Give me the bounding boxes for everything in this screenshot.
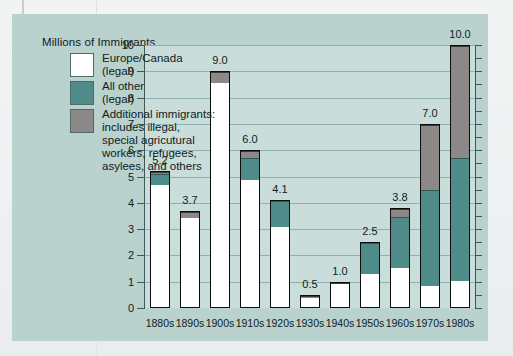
x-axis-tick-label: 1950s [356,317,385,329]
right-axis-tick [475,242,482,243]
y-axis-tick [137,177,145,178]
legend-label-line: asylees, and others [102,160,215,173]
y-axis-tick-label: 2 [108,250,134,260]
y-axis-tick-label: 4 [108,198,134,208]
x-axis-tick-label: 1920s [266,317,295,329]
legend-swatch-all-other [70,81,94,105]
right-axis-tick [475,190,482,191]
legend-label-line: Europe/Canada [102,52,183,65]
legend-label-line: includes illegal, [102,121,215,134]
right-axis-tick [475,177,482,178]
y-axis-tick [137,45,145,46]
x-axis-tick-label: 1960s [386,317,415,329]
right-axis-tick [475,137,482,138]
x-axis-tick-label: 1890s [176,317,205,329]
right-axis-tick [475,255,482,256]
x-axis-tick-label: 1940s [326,317,355,329]
legend-label-line: special agricutural [102,134,215,147]
y-axis-tick-label: 3 [108,224,134,234]
x-axis-tick-label: 1930s [296,317,325,329]
chart-axis-title: Millions of Immigrants [42,36,155,48]
y-axis-tick [137,203,145,204]
right-axis-tick [475,269,482,270]
right-axis-tick [475,84,482,85]
right-axis-tick [475,203,482,204]
y-axis-tick [137,308,145,309]
right-axis-tick [475,58,482,59]
chart-panel-inner: Millions of Immigrants 5.23.79.06.04.10.… [12,14,488,341]
y-axis-tick [137,255,145,256]
legend-item[interactable]: Europe/Canada(legal) [70,52,280,78]
right-axis-tick [475,229,482,230]
legend-label-line: workers, refugees, [102,147,215,160]
legend-label-line: (legal) [102,93,144,106]
legend-item-label: Additional immigrants:includes illegal,s… [102,108,215,173]
x-axis-tick-label: 1970s [416,317,445,329]
right-axis-tick [475,124,482,125]
right-axis-tick [475,150,482,151]
y-axis-tick [137,282,145,283]
bar-value-label: 10.0 [449,28,470,40]
x-axis-tick-label: 1880s [146,317,175,329]
y-axis-tick-label: 1 [108,277,134,287]
y-axis-tick-label: 10 [108,40,134,50]
x-axis-tick-label: 1910s [236,317,265,329]
legend-item[interactable]: Additional immigrants:includes illegal,s… [70,108,280,173]
legend-label-line: All other [102,80,144,93]
x-axis-tick-label: 1900s [206,317,235,329]
y-axis-tick [137,229,145,230]
right-axis-tick [475,111,482,112]
right-axis-tick [475,308,482,309]
right-axis-tick [475,216,482,217]
chart-panel: Millions of Immigrants 5.23.79.06.04.10.… [12,14,488,341]
right-axis-tick [475,45,482,46]
legend-label-line: (legal) [102,65,183,78]
right-axis-tick [475,282,482,283]
legend-item[interactable]: All other(legal) [70,80,280,106]
x-axis-tick-label: 1980s [446,317,475,329]
right-axis-tick [475,71,482,72]
chart-legend: Europe/Canada(legal)All other(legal)Addi… [70,52,280,175]
right-axis-tick [475,98,482,99]
right-axis-tick [475,163,482,164]
legend-swatch-additional [70,109,94,133]
scan-artifact-mark [22,0,24,14]
legend-item-label: Europe/Canada(legal) [102,52,183,78]
legend-swatch-europe-canada [70,53,94,77]
right-axis-tick [475,295,482,296]
legend-label-line: Additional immigrants: [102,108,215,121]
legend-item-label: All other(legal) [102,80,144,106]
y-axis-tick-label: 0 [108,303,134,313]
